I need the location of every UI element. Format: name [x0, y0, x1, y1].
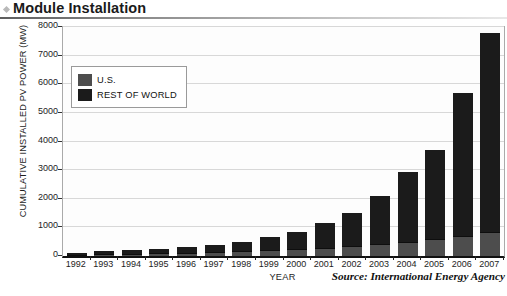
bar-stack [94, 251, 114, 256]
bar-stack [177, 247, 197, 256]
bar-segment-rest-of-world [398, 172, 418, 242]
legend-item: U.S. [78, 72, 177, 87]
bar-stack [287, 232, 307, 256]
y-axis-tick-mark [58, 83, 62, 84]
bar-segment-rest-of-world [370, 196, 390, 244]
bar-segment-rest-of-world [287, 232, 307, 249]
legend-label: U.S. [97, 75, 116, 85]
y-axis-tick-mark [58, 169, 62, 170]
plot-area [62, 26, 505, 258]
bar-segment-rest-of-world [453, 93, 473, 236]
bar-stack [149, 249, 169, 256]
bar-stack [453, 93, 473, 256]
bar-stack [370, 196, 390, 256]
gridline [63, 26, 504, 27]
y-axis-tick-label: 0 [24, 249, 58, 259]
bar-stack [480, 33, 500, 256]
y-axis-tick-label: 4000 [24, 135, 58, 145]
legend-swatch-us [78, 74, 92, 86]
y-axis-tick-label: 1000 [24, 220, 58, 230]
bar-segment-us [315, 248, 335, 256]
bar-segment-us [67, 255, 87, 256]
bar-segment-us [453, 236, 473, 256]
bar-stack [122, 250, 142, 256]
y-axis-tick-label: 6000 [24, 77, 58, 87]
bar-segment-rest-of-world [342, 213, 362, 246]
chart-figure: CUMULATIVE INSTALLED PV POWER (MW) 01000… [0, 19, 507, 296]
gridline [63, 112, 504, 113]
bar-segment-us [480, 232, 500, 256]
bar-segment-rest-of-world [315, 223, 335, 248]
y-axis-tick-label: 7000 [24, 49, 58, 59]
bar-stack [398, 172, 418, 256]
bar-segment-rest-of-world [480, 33, 500, 233]
y-axis-tick-label: 5000 [24, 106, 58, 116]
legend-item: REST OF WORLD [78, 87, 177, 102]
bar-segment-us [342, 246, 362, 256]
diamond-bullet-icon [3, 6, 10, 13]
bar-segment-us [370, 244, 390, 256]
y-axis-tick-label: 2000 [24, 192, 58, 202]
bar-stack [205, 245, 225, 256]
y-axis-tick-mark [58, 226, 62, 227]
bar-stack [67, 253, 87, 256]
bar-segment-us [205, 252, 225, 256]
y-axis-tick-mark [58, 55, 62, 56]
bar-segment-us [425, 239, 445, 256]
gridline [63, 141, 504, 142]
bar-segment-rest-of-world [205, 245, 225, 253]
y-axis-tick-labels: 010002000300040005000600070008000 [20, 19, 58, 269]
bar-segment-us [232, 251, 252, 256]
chart-legend: U.S.REST OF WORLD [71, 66, 187, 108]
bar-segment-us [260, 250, 280, 256]
y-axis-tick-label: 3000 [24, 163, 58, 173]
bar-stack [232, 242, 252, 256]
gridline [63, 55, 504, 56]
bar-stack [315, 223, 335, 256]
page-header: Module Installation [0, 0, 507, 19]
bar-segment-rest-of-world [260, 237, 280, 250]
bar-stack [260, 237, 280, 256]
y-axis-tick-label: 8000 [24, 20, 58, 30]
bar-stack [342, 213, 362, 256]
legend-label: REST OF WORLD [97, 90, 177, 100]
bar-stack [425, 150, 445, 256]
bar-segment-rest-of-world [425, 150, 445, 239]
bar-segment-us [398, 242, 418, 256]
bar-segment-us [287, 249, 307, 256]
page-title: Module Installation [13, 0, 146, 17]
y-axis-tick-mark [58, 112, 62, 113]
bar-segment-us [94, 254, 114, 256]
legend-swatch-rest-of-world [78, 89, 92, 101]
source-note: Source: International Energy Agency [332, 270, 505, 282]
bar-segment-us [177, 253, 197, 256]
x-axis-tick-label: 2007 [472, 259, 506, 269]
bar-segment-us [149, 253, 169, 256]
y-axis-tick-mark [58, 141, 62, 142]
bar-segment-rest-of-world [232, 242, 252, 252]
y-axis-tick-mark [58, 255, 62, 256]
y-axis-tick-mark [58, 198, 62, 199]
y-axis-tick-mark [58, 26, 62, 27]
bar-segment-us [122, 254, 142, 256]
